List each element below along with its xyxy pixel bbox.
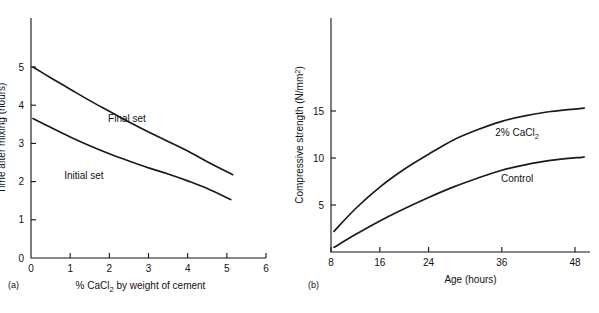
y-tick-label-a-2: 2 xyxy=(18,176,24,187)
y-tick-label-a-0: 0 xyxy=(18,253,24,264)
axis-lines-b xyxy=(331,18,590,252)
y-tick-label-b-1: 10 xyxy=(313,153,325,164)
y-tick-label-a-1: 1 xyxy=(18,214,24,225)
x-axis-label-a: % CaCl2 by weight of cement xyxy=(76,280,206,294)
y-tick-label-b-0: 5 xyxy=(318,200,324,211)
y-tick-label-a-3: 3 xyxy=(18,138,24,149)
x-axis-label-b: Age (hours) xyxy=(444,274,496,285)
curve-b-0 xyxy=(334,108,584,231)
figure-container: 0123456012345% CaCl2 by weight of cement… xyxy=(0,0,599,313)
x-tick-label-a-4: 4 xyxy=(185,263,191,274)
panel-caption-a: (a) xyxy=(8,280,19,290)
y-tick-label-b-2: 15 xyxy=(313,106,325,117)
x-tick-label-b-2: 24 xyxy=(423,257,435,268)
y-axis-label-a: Time after mixing (hours) xyxy=(0,83,7,194)
x-tick-label-a-2: 2 xyxy=(107,263,113,274)
scientific-figure: 0123456012345% CaCl2 by weight of cement… xyxy=(0,0,599,313)
x-tick-label-b-4: 48 xyxy=(569,257,581,268)
x-tick-label-b-1: 16 xyxy=(374,257,386,268)
panel-caption-b: (b) xyxy=(308,280,319,290)
chart-panel-b: 81624364851015Age (hours)Compressive str… xyxy=(293,18,591,285)
axis-lines-a xyxy=(31,18,266,258)
curve-label-a-0: Final set xyxy=(108,113,146,124)
chart-panel-a: 0123456012345% CaCl2 by weight of cement… xyxy=(0,18,269,294)
curve-b-1 xyxy=(334,157,584,247)
curve-label-b-1: Control xyxy=(501,173,533,184)
y-tick-label-a-4: 4 xyxy=(18,100,24,111)
x-tick-label-a-6: 6 xyxy=(263,263,269,274)
x-tick-label-a-0: 0 xyxy=(28,263,34,274)
y-tick-label-a-5: 5 xyxy=(18,62,24,73)
x-tick-label-b-3: 36 xyxy=(496,257,508,268)
x-tick-label-a-5: 5 xyxy=(224,263,230,274)
curve-label-a-1: Initial set xyxy=(64,170,104,181)
curve-label-b-0: 2% CaCl2 xyxy=(495,127,539,141)
x-tick-label-b-0: 8 xyxy=(328,257,334,268)
x-tick-label-a-3: 3 xyxy=(146,263,152,274)
y-axis-label-b: Compressive strength (N/mm2) xyxy=(293,66,306,204)
x-tick-label-a-1: 1 xyxy=(67,263,73,274)
